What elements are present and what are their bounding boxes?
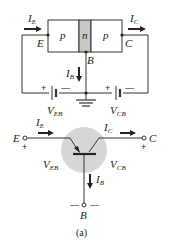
collector-label-bottom: C bbox=[149, 132, 157, 144]
ib-label: IB bbox=[65, 67, 75, 81]
ie-label-bottom: IE bbox=[35, 116, 45, 130]
figure-caption: (a) bbox=[76, 227, 87, 239]
veb-plus: + bbox=[41, 83, 46, 93]
vcb-plus: + bbox=[105, 83, 110, 93]
vcb-minus: — bbox=[125, 83, 134, 93]
ic-arrow-icon bbox=[140, 26, 146, 32]
battery-veb bbox=[49, 86, 59, 100]
ib-arrow-bottom-icon bbox=[87, 183, 93, 189]
ground-icon bbox=[76, 100, 96, 106]
ie-label: IE bbox=[27, 12, 37, 26]
emitter-label-bottom: E bbox=[12, 132, 20, 144]
base-minus-left: — bbox=[70, 200, 79, 210]
ie-arrow-icon bbox=[36, 26, 42, 32]
battery-vcb bbox=[113, 86, 123, 100]
veb-label: VEB bbox=[47, 104, 63, 118]
p-label-right: p bbox=[102, 29, 109, 41]
emitter-terminal bbox=[23, 136, 27, 140]
ic-arrow-bottom-icon bbox=[130, 130, 136, 136]
emitter-plus: + bbox=[22, 142, 27, 152]
base-minus-right: — bbox=[90, 200, 99, 210]
ie-arrow-bottom-icon bbox=[48, 130, 54, 136]
collector-label: C bbox=[125, 37, 133, 49]
pnp-block: p n p bbox=[48, 20, 122, 52]
collector-terminal bbox=[142, 136, 146, 140]
emitter-node bbox=[46, 33, 49, 36]
ic-label-bottom: IC bbox=[103, 121, 113, 135]
veb-minus: — bbox=[61, 83, 70, 93]
base-label: B bbox=[87, 54, 94, 66]
base-label-bottom: B bbox=[80, 209, 87, 221]
p-label-left: p bbox=[59, 29, 66, 41]
collector-plus: + bbox=[141, 142, 146, 152]
collector-node bbox=[120, 33, 123, 36]
pnp-common-base-diagram: p n p + — + — IE bbox=[0, 0, 169, 249]
veb-label-bottom: VEB bbox=[43, 158, 59, 172]
ground-node bbox=[84, 91, 87, 94]
emitter-label: E bbox=[36, 37, 44, 49]
ib-label-bottom: IB bbox=[95, 173, 105, 187]
vcb-label: VCB bbox=[110, 104, 126, 118]
n-label: n bbox=[82, 29, 88, 41]
vcb-label-bottom: VCB bbox=[110, 158, 126, 172]
base-terminal bbox=[82, 203, 86, 207]
ic-label: IC bbox=[129, 12, 139, 26]
ib-arrow-icon bbox=[76, 76, 82, 82]
